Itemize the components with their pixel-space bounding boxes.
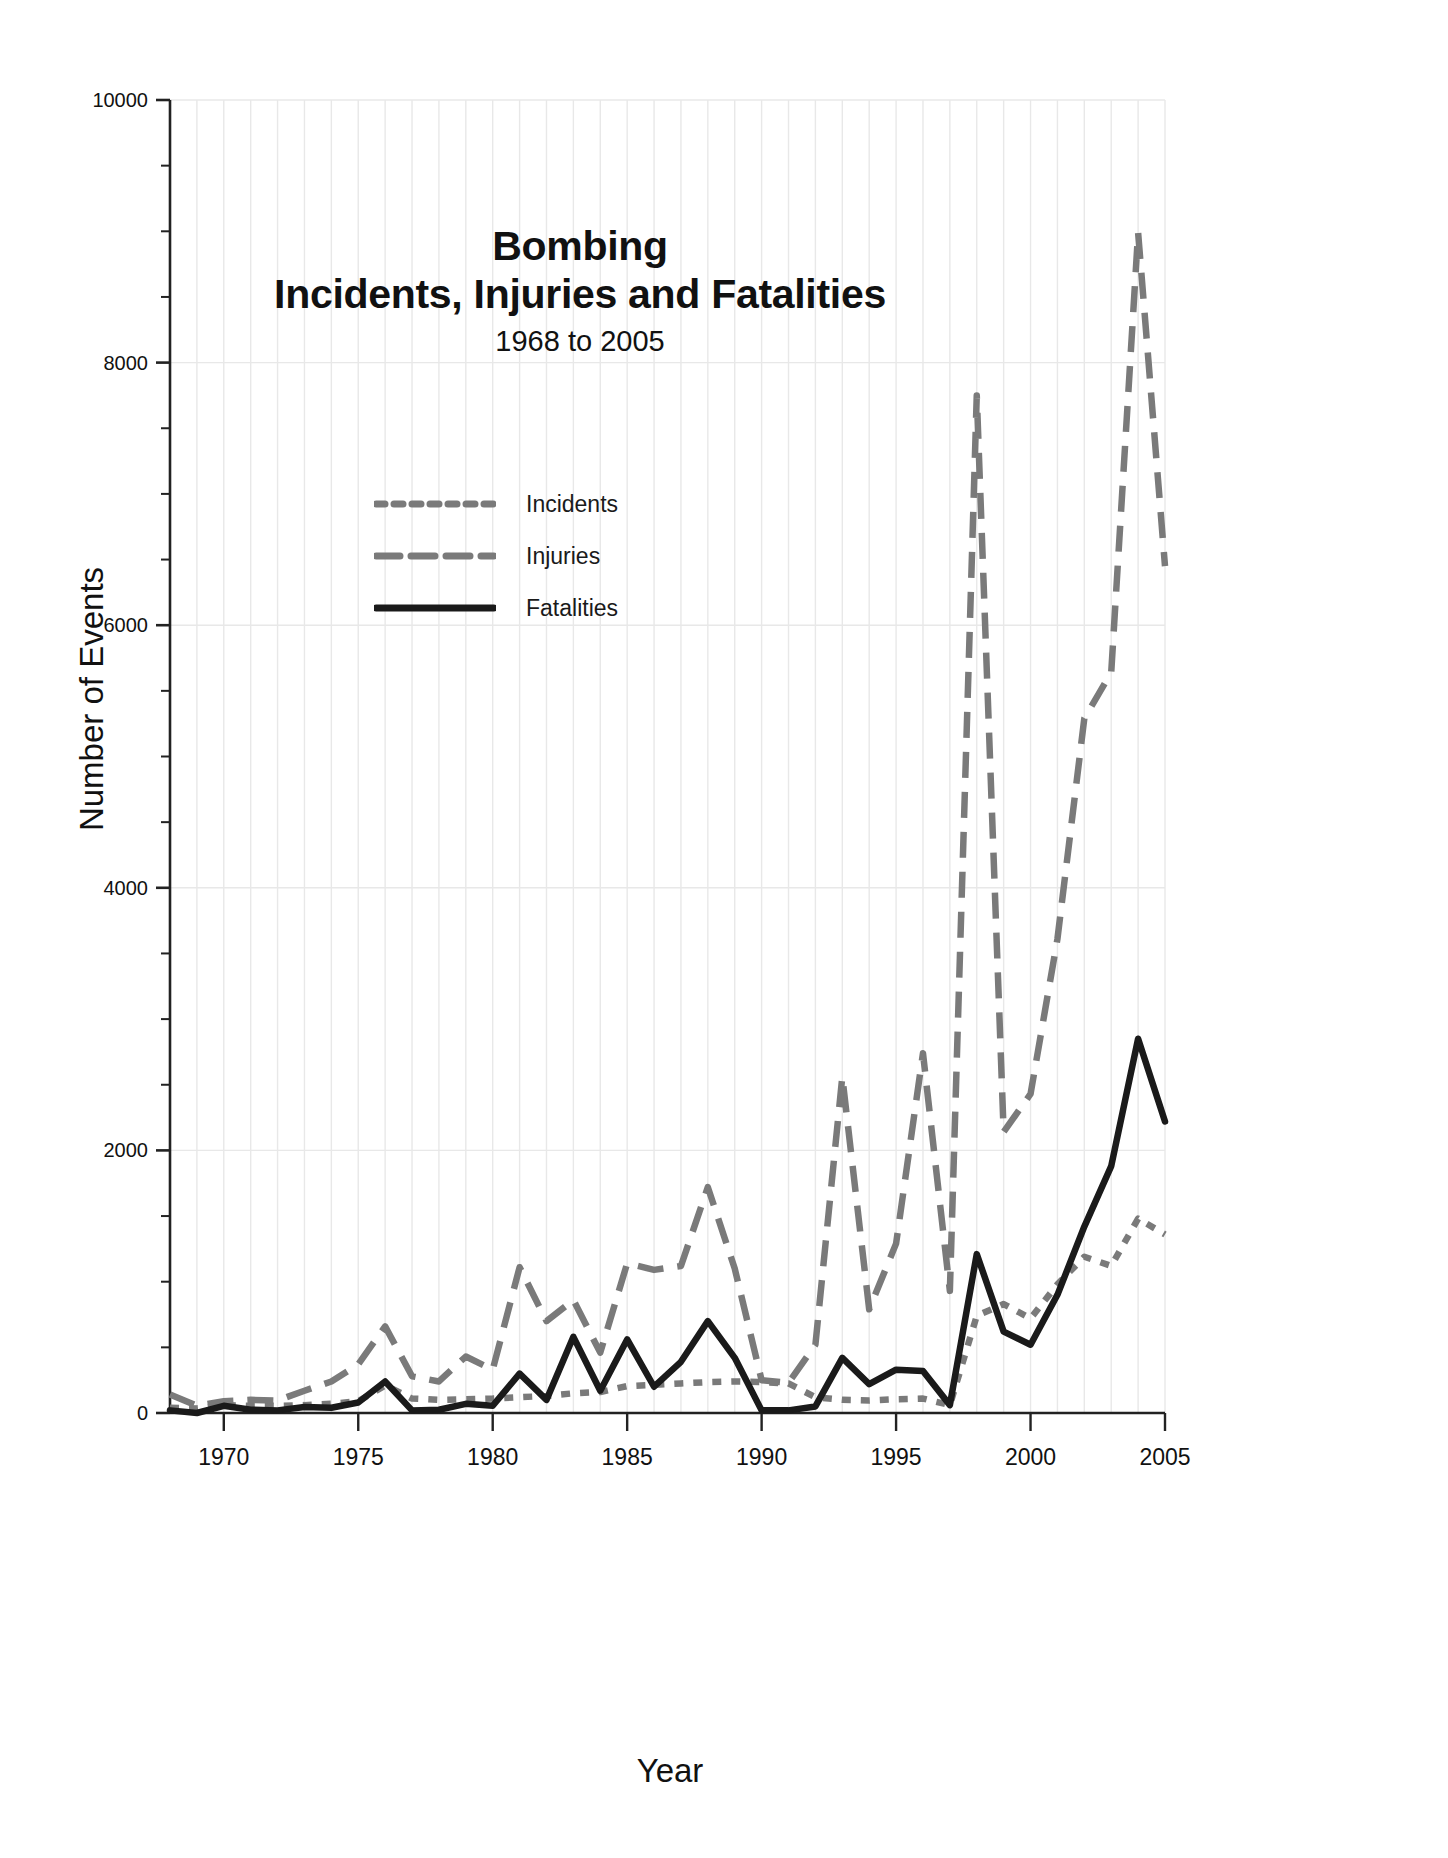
legend-item-incidents: Incidents [374, 478, 704, 530]
svg-text:4000: 4000 [104, 877, 149, 899]
grid-layer [170, 100, 1165, 1413]
y-axis-title: Number of Events [73, 549, 111, 849]
svg-text:1970: 1970 [198, 1444, 249, 1470]
svg-text:0: 0 [137, 1402, 148, 1424]
legend-line-injuries-icon [374, 548, 496, 564]
legend-item-injuries: Injuries [374, 530, 704, 582]
series-line-injuries [170, 233, 1165, 1406]
legend-line-incidents-icon [374, 496, 496, 512]
legend-item-fatalities: Fatalities [374, 582, 704, 634]
legend-label-incidents: Incidents [526, 491, 618, 518]
svg-text:8000: 8000 [104, 352, 149, 374]
legend-label-fatalities: Fatalities [526, 595, 618, 622]
svg-text:1985: 1985 [602, 1444, 653, 1470]
chart-legend: Incidents Injuries Fatalities [374, 478, 704, 634]
series-line-fatalities [170, 1039, 1165, 1413]
svg-text:1990: 1990 [736, 1444, 787, 1470]
x-axis-title: Year [480, 1752, 860, 1790]
svg-text:1995: 1995 [870, 1444, 921, 1470]
svg-text:1980: 1980 [467, 1444, 518, 1470]
svg-text:2000: 2000 [1005, 1444, 1056, 1470]
series-line-incidents [170, 1219, 1165, 1409]
svg-text:2005: 2005 [1139, 1444, 1190, 1470]
tick-labels-layer: 0200040006000800010000197019751980198519… [92, 89, 1190, 1470]
series-layer [170, 233, 1165, 1413]
svg-text:10000: 10000 [92, 89, 148, 111]
legend-label-injuries: Injuries [526, 543, 600, 570]
legend-line-fatalities-icon [374, 600, 496, 616]
svg-text:1975: 1975 [333, 1444, 384, 1470]
chart-canvas: 0200040006000800010000197019751980198519… [0, 0, 1448, 1858]
chart-figure: 0200040006000800010000197019751980198519… [0, 0, 1448, 1858]
svg-text:2000: 2000 [104, 1139, 149, 1161]
axes-layer [156, 100, 1165, 1431]
